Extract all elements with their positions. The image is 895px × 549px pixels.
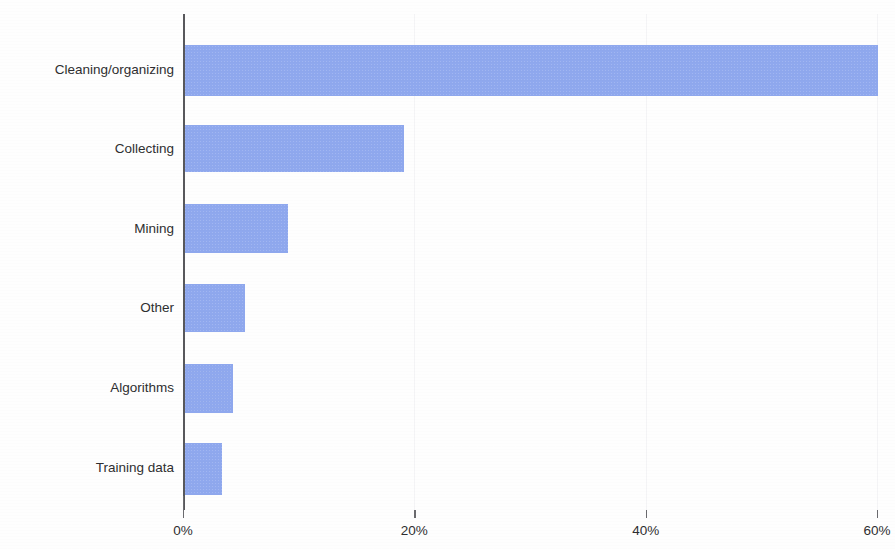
plot-area: Cleaning/organizing Collecting Mining Ot… xyxy=(0,0,895,549)
x-axis-tick-0 xyxy=(183,496,184,518)
bar-chart: Cleaning/organizing Collecting Mining Ot… xyxy=(0,0,895,549)
x-axis-tick-20 xyxy=(414,510,415,518)
bar-mining[interactable] xyxy=(184,204,288,253)
y-axis-label-mining: Mining xyxy=(134,221,174,237)
bar-training-data[interactable] xyxy=(184,443,222,495)
bar-collecting[interactable] xyxy=(184,125,404,172)
y-axis-label-collecting: Collecting xyxy=(115,141,174,157)
bar-algorithms[interactable] xyxy=(184,364,233,413)
x-axis-tick-60 xyxy=(877,510,878,518)
y-axis-label-training-data: Training data xyxy=(96,460,174,476)
x-axis-tick-label-20: 20% xyxy=(401,523,428,539)
y-axis-label-algorithms: Algorithms xyxy=(110,380,174,396)
bar-other[interactable] xyxy=(184,284,245,332)
y-axis-label-cleaning-organizing: Cleaning/organizing xyxy=(55,62,174,78)
x-axis-tick-label-40: 40% xyxy=(632,523,659,539)
bar-cleaning-organizing[interactable] xyxy=(184,45,878,96)
y-axis-line xyxy=(183,14,185,510)
x-axis-tick-40 xyxy=(646,510,647,518)
y-axis-label-other: Other xyxy=(140,300,174,316)
x-axis-tick-label-0: 0% xyxy=(173,523,193,539)
x-axis-tick-label-60: 60% xyxy=(863,523,890,539)
